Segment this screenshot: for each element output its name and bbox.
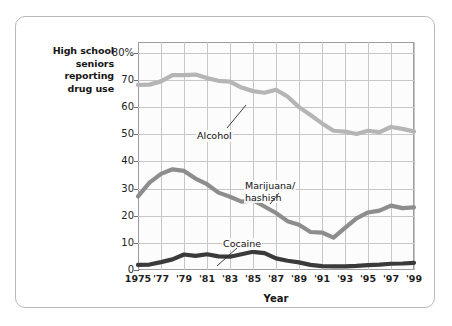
x-axis-tick-label: 1975 bbox=[125, 273, 151, 284]
series-label-marijuana: Marijuana/ hashish bbox=[244, 180, 296, 203]
y-axis-tick-labels: 01020304050607080% bbox=[82, 42, 134, 270]
y-axis-tick-label: 10 bbox=[88, 237, 134, 248]
x-axis-tick-label: '91 bbox=[314, 273, 330, 284]
figure-card: High school seniors reporting drug use 0… bbox=[15, 16, 435, 308]
x-axis-tick-label: '77 bbox=[153, 273, 169, 284]
x-axis-tick-label: '85 bbox=[245, 273, 261, 284]
x-axis-title: Year bbox=[138, 293, 414, 304]
plot-area bbox=[138, 42, 414, 270]
series-lines bbox=[138, 42, 414, 270]
x-axis-tick-label: '83 bbox=[222, 273, 238, 284]
y-axis-tick-label: 80% bbox=[88, 47, 134, 58]
y-axis-tick-label: 20 bbox=[88, 210, 134, 221]
x-axis-tick-label: '79 bbox=[176, 273, 192, 284]
x-axis-tick-label: '89 bbox=[291, 273, 307, 284]
series-line-alcohol bbox=[138, 75, 414, 134]
x-axis-tick-label: '99 bbox=[406, 273, 422, 284]
x-axis-tick-label: '97 bbox=[383, 273, 399, 284]
y-axis-tick-label: 50 bbox=[88, 128, 134, 139]
y-axis-tick-mark bbox=[134, 270, 139, 271]
y-axis-tick-label: 30 bbox=[88, 183, 134, 194]
x-axis-tick-label: '87 bbox=[268, 273, 284, 284]
series-label-alcohol: Alcohol bbox=[196, 130, 233, 142]
y-axis-tick-label: 60 bbox=[88, 101, 134, 112]
y-axis-tick-label: 40 bbox=[88, 155, 134, 166]
series-line-cocaine bbox=[138, 252, 414, 267]
vertical-gridline bbox=[414, 42, 415, 270]
x-axis-tick-label: '93 bbox=[337, 273, 353, 284]
x-axis-tick-label: '81 bbox=[199, 273, 215, 284]
x-axis-tick-labels: 1975'77'79'81'83'85'87'89'91'93'95'97'99 bbox=[138, 273, 414, 289]
y-axis-tick-label: 70 bbox=[88, 74, 134, 85]
series-label-cocaine: Cocaine bbox=[222, 238, 262, 250]
x-axis-tick-label: '95 bbox=[360, 273, 376, 284]
